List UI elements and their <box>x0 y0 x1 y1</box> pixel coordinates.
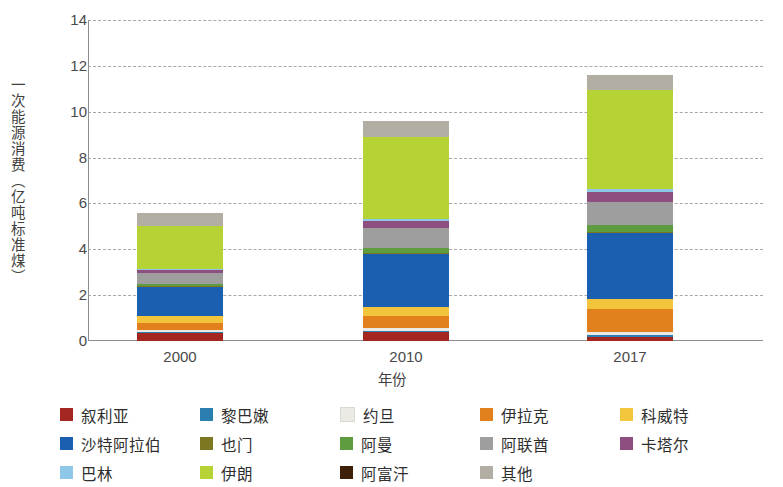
bar-segment <box>363 121 449 136</box>
legend-item[interactable]: 也门 <box>200 433 340 455</box>
bar-segment <box>363 254 449 307</box>
legend-swatch-icon <box>200 466 213 479</box>
y-axis-title: 一次能源消费（亿吨标准煤） <box>6 20 28 341</box>
legend-swatch-icon <box>200 437 213 450</box>
legend-item[interactable]: 卡塔尔 <box>620 433 760 455</box>
legend-swatch-icon <box>60 408 73 421</box>
bar-segment <box>363 137 449 218</box>
legend-label: 科威特 <box>641 404 689 426</box>
legend-swatch-icon <box>480 437 493 450</box>
y-tick-label: 8 <box>47 149 87 166</box>
legend-item[interactable]: 其他 <box>480 462 620 484</box>
bar-segment <box>587 299 673 309</box>
legend: 叙利亚黎巴嫩约旦伊拉克科威特沙特阿拉伯也门阿曼阿联酋卡塔尔巴林伊朗阿富汗其他 <box>60 400 760 487</box>
legend-item[interactable]: 科威特 <box>620 404 760 426</box>
legend-item[interactable]: 叙利亚 <box>60 404 200 426</box>
legend-label: 其他 <box>501 462 533 484</box>
y-tick-label: 4 <box>47 240 87 257</box>
legend-item[interactable]: 沙特阿拉伯 <box>60 433 200 455</box>
bar-segment <box>363 316 449 328</box>
y-tick-label: 14 <box>47 11 87 28</box>
bar-segment <box>137 213 223 226</box>
legend-swatch-icon <box>480 466 493 479</box>
legend-label: 阿曼 <box>361 433 393 455</box>
legend-swatch-icon <box>620 408 633 421</box>
legend-label: 卡塔尔 <box>641 433 689 455</box>
bar-segment <box>137 323 223 331</box>
bar-segment <box>587 309 673 332</box>
bar-segment <box>587 202 673 225</box>
y-tick-label: 2 <box>47 286 87 303</box>
bar-segment <box>363 307 449 316</box>
legend-swatch-icon <box>480 408 493 421</box>
bar-segment <box>587 225 673 232</box>
y-tick-label: 10 <box>47 103 87 120</box>
bar-segment <box>363 221 449 228</box>
y-tick-label: 12 <box>47 57 87 74</box>
legend-item[interactable]: 伊朗 <box>200 462 340 484</box>
legend-swatch-icon <box>60 466 73 479</box>
legend-swatch-icon <box>60 437 73 450</box>
plot-area <box>88 20 763 341</box>
y-tick-label: 6 <box>47 194 87 211</box>
legend-label: 黎巴嫩 <box>221 404 269 426</box>
legend-label: 伊拉克 <box>501 404 549 426</box>
bar-segment <box>137 273 223 284</box>
legend-label: 阿联酋 <box>501 433 549 455</box>
bar-segment <box>587 233 673 298</box>
legend-swatch-icon <box>200 408 213 421</box>
legend-label: 阿富汗 <box>361 462 409 484</box>
bar-segment <box>587 192 673 202</box>
bar-segment <box>137 226 223 269</box>
bar-2017 <box>587 75 673 341</box>
legend-item[interactable]: 约旦 <box>340 404 480 426</box>
gridline <box>88 20 763 21</box>
gridline <box>88 66 763 67</box>
bar-segment <box>363 332 449 341</box>
legend-item[interactable]: 阿联酋 <box>480 433 620 455</box>
legend-label: 沙特阿拉伯 <box>81 433 161 455</box>
bar-segment <box>363 228 449 247</box>
legend-item[interactable]: 巴林 <box>60 462 200 484</box>
x-tick-label: 2000 <box>120 348 240 365</box>
x-tick-label: 2017 <box>570 348 690 365</box>
bar-2010 <box>363 121 449 341</box>
legend-item[interactable]: 黎巴嫩 <box>200 404 340 426</box>
legend-swatch-icon <box>340 407 355 422</box>
bar-segment <box>587 90 673 189</box>
legend-label: 巴林 <box>81 462 113 484</box>
x-tick-label: 2010 <box>346 348 466 365</box>
y-tick-label: 0 <box>47 332 87 349</box>
bar-segment <box>137 316 223 323</box>
legend-swatch-icon <box>340 437 353 450</box>
bar-segment <box>587 337 673 341</box>
bar-segment <box>137 287 223 316</box>
bar-segment <box>587 75 673 89</box>
legend-label: 伊朗 <box>221 462 253 484</box>
legend-label: 也门 <box>221 433 253 455</box>
legend-label: 约旦 <box>363 404 395 426</box>
legend-item[interactable]: 伊拉克 <box>480 404 620 426</box>
legend-swatch-icon <box>340 466 353 479</box>
bar-2000 <box>137 213 223 341</box>
legend-item[interactable]: 阿富汗 <box>340 462 480 484</box>
stacked-bar-chart: 一次能源消费（亿吨标准煤） 02468101214 200020102017 年… <box>0 0 783 487</box>
bar-segment <box>137 333 223 341</box>
x-axis-title: 年份 <box>0 368 783 389</box>
legend-label: 叙利亚 <box>81 404 129 426</box>
legend-item[interactable]: 阿曼 <box>340 433 480 455</box>
y-axis-line <box>88 20 89 341</box>
legend-swatch-icon <box>620 437 633 450</box>
